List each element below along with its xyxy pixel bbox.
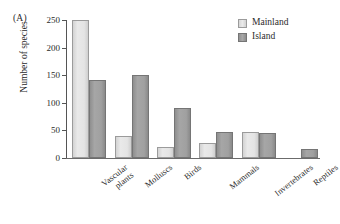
y-tick-label: 200 xyxy=(47,43,61,52)
y-tick-label: 0 xyxy=(56,154,61,163)
bar-island-reptiles xyxy=(301,149,318,158)
bar-island-molluscs xyxy=(132,75,149,158)
bar-group xyxy=(115,20,149,158)
bar-mainland-mammals xyxy=(199,143,216,158)
x-tick-label: Birds xyxy=(182,162,203,182)
y-tick-label: 100 xyxy=(47,98,61,107)
bar-island-invertebrates xyxy=(259,133,276,158)
y-tick-label: 150 xyxy=(47,71,61,80)
x-tick-label: Mammals xyxy=(228,162,262,191)
bar-group xyxy=(284,20,318,158)
bar-mainland-birds xyxy=(157,147,174,158)
bar-island-mammals xyxy=(216,132,233,158)
bar-mainland-molluscs xyxy=(115,136,132,158)
bar-island-birds xyxy=(174,108,191,158)
island-swatch xyxy=(238,33,247,42)
y-tick-label: 250 xyxy=(47,16,61,25)
legend-label: Mainland xyxy=(252,18,288,28)
x-tick-label: Vascular plants xyxy=(100,162,136,196)
legend-item-island: Island xyxy=(238,31,288,43)
legend-label: Island xyxy=(252,32,275,42)
x-axis-line xyxy=(66,158,320,159)
y-tick-mark xyxy=(62,158,66,159)
x-tick-label: Invertebrates xyxy=(272,162,314,198)
bar-group xyxy=(157,20,191,158)
bar-mainland-vascular-plants xyxy=(72,20,89,158)
x-tick-label: Reptiles xyxy=(311,162,340,188)
bar-mainland-invertebrates xyxy=(242,132,259,158)
y-axis-title: Number of species xyxy=(19,0,29,117)
legend-item-mainland: Mainland xyxy=(238,17,288,29)
bar-island-vascular-plants xyxy=(89,80,106,158)
y-tick-label: 50 xyxy=(51,126,60,135)
bar-group xyxy=(199,20,233,158)
x-tick-label: Molluscs xyxy=(142,162,173,190)
mainland-swatch xyxy=(238,19,247,28)
chart-legend: MainlandIsland xyxy=(238,17,288,45)
bar-group xyxy=(72,20,106,158)
